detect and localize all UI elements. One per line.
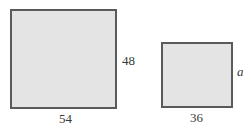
large-rectangle-width-label: 54 xyxy=(59,112,72,125)
large-rectangle-height-label: 48 xyxy=(122,54,135,67)
small-rectangle-width-label: 36 xyxy=(190,111,203,124)
small-rectangle-height-label: a xyxy=(237,65,243,78)
large-rectangle xyxy=(10,9,117,109)
small-rectangle xyxy=(161,42,233,108)
